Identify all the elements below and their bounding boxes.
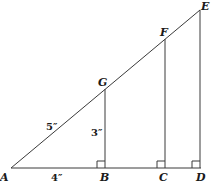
right-angle-marker-C — [157, 161, 165, 168]
similar-triangles-diagram: A B C D G F E 5″ 3″ 4″ — [0, 0, 212, 182]
point-label-E: E — [200, 0, 210, 13]
point-label-B: B — [99, 171, 109, 182]
measure-AB: 4″ — [51, 172, 63, 182]
point-label-A: A — [0, 171, 9, 182]
point-label-C: C — [159, 171, 168, 182]
point-label-F: F — [159, 26, 169, 39]
point-label-G: G — [98, 76, 107, 89]
measure-AG: 5″ — [46, 121, 58, 132]
right-angle-marker-D — [192, 161, 200, 168]
right-angle-marker-B — [97, 161, 105, 168]
measure-GB: 3″ — [91, 127, 103, 138]
point-label-D: D — [195, 171, 206, 182]
